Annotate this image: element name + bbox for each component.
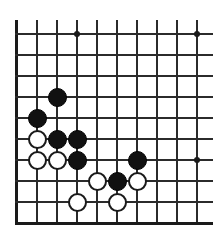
- grid-line-vertical-8: [176, 20, 178, 225]
- white-stone[interactable]: [28, 130, 47, 149]
- white-stone[interactable]: [68, 193, 87, 212]
- grid-line-vertical-0: [15, 20, 18, 225]
- grid-line-horizontal-2: [15, 75, 213, 77]
- grid-line-vertical-4: [96, 20, 98, 225]
- white-stone[interactable]: [48, 151, 67, 170]
- black-stone[interactable]: [28, 109, 47, 128]
- grid-line-horizontal-1: [15, 54, 213, 56]
- grid-line-horizontal-0: [15, 33, 213, 35]
- grid-line-vertical-6: [136, 20, 138, 225]
- black-stone[interactable]: [68, 151, 87, 170]
- black-stone[interactable]: [48, 130, 67, 149]
- star-point-icon-0: [74, 31, 80, 37]
- black-stone[interactable]: [108, 172, 127, 191]
- grid-line-horizontal-9: [15, 222, 213, 225]
- grid-line-horizontal-3: [15, 96, 213, 98]
- grid-line-vertical-2: [56, 20, 58, 225]
- white-stone[interactable]: [28, 151, 47, 170]
- white-stone[interactable]: [88, 172, 107, 191]
- grid-line-vertical-7: [156, 20, 158, 225]
- black-stone[interactable]: [128, 151, 147, 170]
- black-stone[interactable]: [68, 130, 87, 149]
- go-board-diagram: [0, 0, 223, 240]
- star-point-icon-1: [194, 31, 200, 37]
- star-point-icon-2: [194, 157, 200, 163]
- black-stone[interactable]: [48, 88, 67, 107]
- board-surface[interactable]: [0, 0, 223, 240]
- white-stone[interactable]: [108, 193, 127, 212]
- white-stone[interactable]: [128, 172, 147, 191]
- grid-line-vertical-9: [196, 20, 198, 225]
